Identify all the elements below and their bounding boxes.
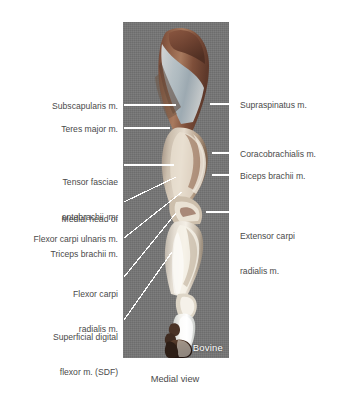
label-teres-major: Teres major m. [61,124,118,136]
figure-caption: Medial view [0,374,350,384]
label-medial-head-triceps-line2: Triceps brachii m. [51,249,119,261]
label-extensor-carpi-radialis-line2: radialis m. [240,266,295,278]
label-supraspinatus: Supraspinatus m. [240,100,307,112]
label-extensor-carpi-radialis-line1: Extensor carpi [240,231,295,243]
label-tensor-fasciae-line1: Tensor fasciae [62,177,118,189]
label-superficial-digital-flexor: Superficial digital flexor m. (SDF) [53,309,118,399]
anatomy-figure: Bovine Subscapularis m. Teres major m. T… [0,0,350,399]
label-superficial-digital-flexor-line1: Superficial digital [53,332,118,344]
label-flexor-carpi-ulnaris: Flexor carpi ulnaris m. [33,234,118,246]
specimen-photograph: Bovine [123,22,229,358]
label-flexor-carpi-radialis-line1: Flexor carpi [73,289,118,301]
label-coracobrachialis: Coracobrachialis m. [240,149,316,161]
bovine-forelimb-specimen [123,22,229,358]
specimen-tag: Bovine [193,342,223,353]
label-biceps-brachii: Biceps brachii m. [240,171,305,183]
label-extensor-carpi-radialis: Extensor carpi radialis m. [240,208,295,301]
label-subscapularis: Subscapularis m. [52,101,118,113]
label-medial-head-triceps-line1: Medial head of [51,214,119,226]
